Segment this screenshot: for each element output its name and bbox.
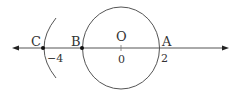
- point-b: [80, 46, 84, 50]
- diagram-canvas: C −4 B O 0 A 2: [0, 0, 232, 97]
- label-c: C: [31, 34, 41, 49]
- value-c: −4: [47, 52, 63, 65]
- label-o: O: [116, 29, 127, 44]
- label-b: B: [71, 34, 81, 49]
- label-a: A: [161, 34, 172, 49]
- value-a: 2: [161, 52, 168, 65]
- number-line-diagram: C −4 B O 0 A 2: [0, 0, 232, 97]
- point-c: [41, 46, 45, 50]
- right-arrowhead-icon: [222, 46, 229, 51]
- value-o: 0: [118, 53, 125, 66]
- left-arrowhead-icon: [12, 46, 19, 51]
